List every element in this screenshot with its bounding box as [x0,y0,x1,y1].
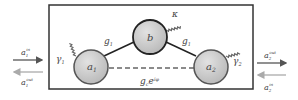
a1-in-label: a1in [21,47,31,58]
a1-out-label: a1out [21,77,33,88]
g1-label: g1 [104,36,113,47]
gamma2-label: γ2 [233,56,242,67]
a2-in-label: a2in [264,82,274,93]
g2-label: g1 [182,36,191,47]
coupled-cavity-diagram: a1 b a2 g1 g1 gceiφ κ γ1 γ2 a1in a1out a… [0,0,298,100]
coupling-g2-line [166,42,196,56]
kappa-wavy-icon [166,26,181,32]
node-b-label: b [147,32,153,43]
direct-coupling-label: gceiφ [140,76,160,87]
gamma1-label: γ1 [56,54,65,65]
a2-out-label: a2out [264,50,276,61]
kappa-label: κ [171,9,178,19]
gamma1-wavy-icon [69,43,76,57]
